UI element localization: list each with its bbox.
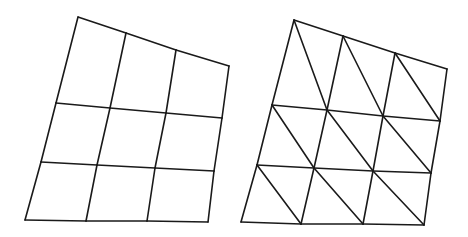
vertical-edge: [440, 69, 447, 121]
vertical-edge: [241, 165, 257, 222]
vertical-edge: [314, 110, 327, 168]
vertical-edge: [301, 168, 314, 224]
horizontal-edge: [363, 224, 424, 225]
diagonal-edge: [314, 168, 363, 224]
vertical-edge: [373, 116, 383, 171]
horizontal-edge: [41, 162, 97, 165]
vertical-edge: [383, 53, 395, 116]
horizontal-edge: [383, 116, 440, 121]
vertical-edge: [155, 113, 166, 168]
horizontal-edge: [78, 17, 126, 33]
horizontal-edge: [126, 33, 176, 50]
vertical-edge: [257, 105, 272, 165]
horizontal-edge: [294, 20, 343, 36]
vertical-edge: [41, 103, 56, 162]
vertical-edge: [327, 36, 343, 110]
horizontal-edge: [241, 222, 301, 224]
mesh-diagram: [0, 0, 468, 237]
vertical-edge: [424, 173, 431, 225]
horizontal-edge: [147, 221, 208, 222]
horizontal-edge: [257, 165, 314, 168]
diagonal-edge: [343, 36, 383, 116]
horizontal-edge: [327, 110, 383, 116]
diagonal-edge: [395, 53, 440, 121]
horizontal-edge: [155, 168, 214, 171]
diagonal-edge: [327, 110, 373, 171]
diagonal-edge: [272, 105, 314, 168]
triangulated-mesh: [241, 20, 447, 225]
quad-mesh: [25, 17, 229, 222]
diagonal-edge: [383, 116, 431, 173]
horizontal-edge: [176, 50, 229, 66]
diagonal-edge: [257, 165, 301, 224]
vertical-edge: [25, 162, 41, 220]
vertical-edge: [86, 165, 97, 221]
vertical-edge: [214, 118, 222, 171]
horizontal-edge: [314, 168, 373, 171]
diagonal-edge: [294, 20, 327, 110]
horizontal-edge: [395, 53, 447, 69]
horizontal-edge: [272, 105, 327, 110]
vertical-edge: [56, 17, 78, 103]
vertical-edge: [147, 168, 155, 221]
horizontal-edge: [97, 165, 155, 168]
vertical-edge: [363, 171, 373, 224]
vertical-edge: [110, 33, 126, 108]
horizontal-edge: [25, 220, 86, 221]
vertical-edge: [208, 171, 214, 222]
vertical-edge: [272, 20, 294, 105]
vertical-edge: [222, 66, 229, 118]
diagonal-edge: [373, 171, 424, 225]
vertical-edge: [431, 121, 440, 173]
vertical-edge: [97, 108, 110, 165]
vertical-edge: [166, 50, 176, 113]
horizontal-edge: [166, 113, 222, 118]
horizontal-edge: [56, 103, 110, 108]
horizontal-edge: [110, 108, 166, 113]
horizontal-edge: [373, 171, 431, 173]
